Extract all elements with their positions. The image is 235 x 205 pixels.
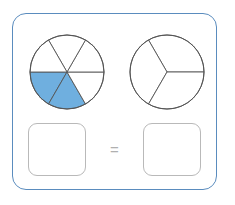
right-answer-box[interactable] — [143, 123, 201, 176]
left-answer-box[interactable] — [28, 123, 86, 176]
equals-sign: = — [106, 123, 124, 176]
answer-row: = — [28, 121, 201, 177]
fraction-activity-canvas: = — [0, 0, 235, 205]
